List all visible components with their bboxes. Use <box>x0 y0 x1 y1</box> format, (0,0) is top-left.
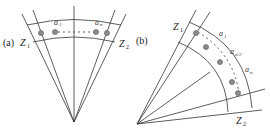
panel-a-dot <box>104 30 109 35</box>
panel-a-first-label-sub: 1 <box>59 22 62 27</box>
panel-a-zone-left-sub: 1 <box>27 43 30 49</box>
panel-b-label-last-sub: n <box>250 70 253 75</box>
panel-a-zone-right: Z <box>119 38 125 49</box>
panel-a-left-outer-line <box>22 14 74 122</box>
panel-a-last-label: a <box>95 18 99 27</box>
panel-b-zone-top-sub: 1 <box>180 27 183 33</box>
panel-b-zone-top: Z <box>173 21 179 32</box>
panel-b-dot <box>193 30 198 35</box>
panel-a-tag: (a) <box>3 37 14 49</box>
panel-a-dot <box>93 29 98 34</box>
panel-a-dot <box>38 30 43 35</box>
panel-b-tag: (b) <box>136 35 148 47</box>
panel-b-label-first-sub: 1 <box>224 34 227 39</box>
panel-b-top-outer-line <box>137 10 196 124</box>
panel-b-dot <box>203 44 208 49</box>
panel-a-right-outer-line <box>74 14 126 122</box>
panel-a-dot <box>52 29 57 34</box>
panel-b-dots <box>193 30 240 95</box>
panel-a-last-label-sub: n <box>100 22 103 27</box>
panel-b-zone-bottom-sub: 2 <box>243 121 246 127</box>
panel-b-dot <box>235 90 240 95</box>
panel-b-label-mid: a <box>230 47 234 56</box>
panel-b-label-first: a <box>219 29 223 38</box>
panel-a-first-label: a <box>54 18 58 27</box>
panel-b-middle-line <box>137 72 210 124</box>
panel-b-dot <box>229 79 234 84</box>
panel-a-zone-right-sub: 2 <box>126 44 129 50</box>
figure-canvas: (a) Z 1 Z 2 a 1 a n (b) Z 1 Z 2 a 1 a n/… <box>0 0 270 130</box>
panel-b-label-last: a <box>245 65 249 74</box>
panel-b-zone-bottom: Z <box>236 115 242 126</box>
panel-a <box>22 6 126 122</box>
panel-b-dot <box>217 59 222 64</box>
panel-b-label-mid-sub: n/2 <box>235 52 242 57</box>
panel-a-zone-left: Z <box>20 37 26 48</box>
